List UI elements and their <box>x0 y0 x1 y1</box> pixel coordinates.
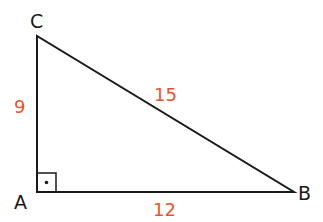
side-label-ab: 12 <box>153 199 176 220</box>
vertex-label-a: A <box>14 191 27 213</box>
vertex-label-c: C <box>30 10 43 32</box>
side-label-ac: 9 <box>14 96 25 117</box>
vertex-label-b: B <box>298 182 311 204</box>
side-label-cb: 15 <box>154 84 177 105</box>
right-angle-dot <box>45 181 49 185</box>
triangle-abc <box>37 36 294 192</box>
right-triangle-diagram: C A B 9 15 12 <box>0 0 323 222</box>
